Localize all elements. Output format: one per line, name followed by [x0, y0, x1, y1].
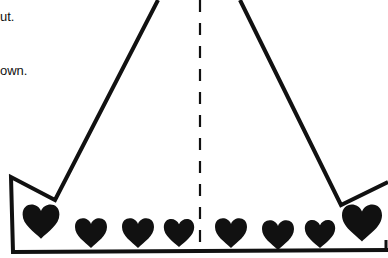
heart-icon [75, 218, 107, 248]
heart-icon [305, 220, 335, 248]
heart-icon [342, 204, 382, 241]
heart-icon [164, 219, 194, 247]
heart-icon [262, 220, 294, 250]
heart-icon [215, 218, 247, 248]
crown-outline-right [240, 0, 388, 205]
heart-icon [23, 205, 60, 239]
hearts [23, 204, 382, 250]
crown-cutout-template [0, 0, 388, 258]
heart-icon [122, 218, 154, 248]
